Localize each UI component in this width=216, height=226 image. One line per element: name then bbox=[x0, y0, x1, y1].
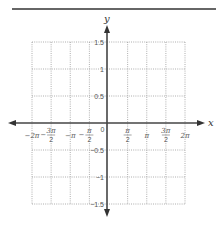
y-tick-label: 1.5 bbox=[94, 39, 104, 46]
x-tick-label-numerator: π bbox=[86, 127, 92, 135]
x-tick-label-denominator: 2 bbox=[49, 136, 53, 143]
x-tick-label: −2π bbox=[25, 132, 40, 140]
y-axis-down-arrow-icon bbox=[104, 209, 110, 217]
y-tick-label: −1 bbox=[96, 174, 104, 181]
x-axis-left-arrow-icon bbox=[8, 120, 16, 126]
x-tick-label-origin: 0 bbox=[101, 126, 105, 133]
x-tick-label-numerator: 3π bbox=[161, 127, 170, 135]
x-tick-label: π bbox=[143, 132, 149, 140]
axes: x y bbox=[8, 13, 214, 217]
y-tick-label: 0.5 bbox=[94, 93, 104, 100]
y-tick-label: 1 bbox=[100, 66, 104, 73]
x-tick-label-numerator: 3π bbox=[47, 127, 56, 135]
x-tick-label-denominator: 2 bbox=[126, 136, 130, 143]
x-tick-label-denominator: 2 bbox=[87, 136, 91, 143]
x-tick-label-minus: − bbox=[40, 131, 46, 139]
x-tick-label-numerator: π bbox=[124, 127, 130, 135]
y-tick-label: −1.5 bbox=[90, 201, 104, 208]
y-axis-up-arrow-icon bbox=[104, 25, 110, 33]
x-tick-label-denominator: 2 bbox=[164, 136, 168, 143]
coordinate-plane: x y −2π−3π2−π−π20π2π3π22π 1.510.5−0.5−1−… bbox=[0, 0, 216, 226]
y-axis-label: y bbox=[103, 13, 110, 24]
x-axis-right-arrow-icon bbox=[197, 120, 205, 126]
y-tick-label: −0.5 bbox=[90, 147, 104, 154]
x-axis-label: x bbox=[208, 117, 214, 128]
x-tick-label: −π bbox=[65, 132, 76, 140]
x-tick-label: 2π bbox=[179, 132, 189, 140]
x-tick-label-minus: − bbox=[78, 131, 84, 139]
